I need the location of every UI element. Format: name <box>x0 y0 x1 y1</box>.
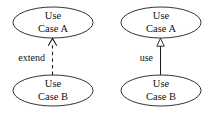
use-relationship-connector[interactable] <box>157 38 164 75</box>
use-case-a-node-right[interactable]: Use Case A <box>121 7 201 38</box>
use-case-b-label-line1-right: Use <box>153 78 170 89</box>
diagram-svg-canvas: Use Case A Use Case B extend Use Ca <box>0 0 211 115</box>
uml-use-case-diagram: Use Case A Use Case B extend Use Ca <box>0 0 211 115</box>
use-hollow-triangle-arrow-icon <box>157 38 164 46</box>
use-case-a-label-line2-right: Case A <box>146 23 176 34</box>
use-case-b-label-line2-left: Case B <box>38 91 68 102</box>
use-case-b-label-line1-left: Use <box>45 78 62 89</box>
use-case-b-node-left[interactable]: Use Case B <box>13 75 93 106</box>
use-fragment: Use Case A Use Case B use <box>121 7 201 106</box>
use-case-b-node-right[interactable]: Use Case B <box>121 75 201 106</box>
extend-relationship-connector[interactable] <box>48 38 56 75</box>
extend-relationship-label: extend <box>18 52 45 63</box>
use-case-a-node-left[interactable]: Use Case A <box>13 7 93 38</box>
use-case-a-label-line1-left: Use <box>45 10 62 21</box>
use-case-a-label-line1-right: Use <box>153 10 170 21</box>
extend-fragment: Use Case A Use Case B extend <box>13 7 93 106</box>
use-case-a-label-line2-left: Case A <box>38 23 68 34</box>
extend-open-arrow-icon <box>48 38 56 45</box>
use-relationship-label: use <box>140 52 154 63</box>
use-case-b-label-line2-right: Case B <box>146 91 176 102</box>
